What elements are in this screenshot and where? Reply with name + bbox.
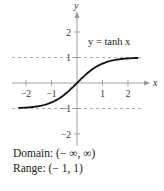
x-tick-label: −1 (46, 89, 56, 99)
x-tick-label: −2 (21, 89, 31, 99)
x-axis-label: x (152, 77, 158, 88)
range-caption: Range: (− 1, 1) (13, 162, 83, 174)
y-axis-arrow-icon (75, 11, 80, 18)
y-tick-label: −1 (61, 104, 71, 114)
y-tick-label: 2 (66, 28, 71, 38)
x-tick-label: 2 (126, 89, 131, 99)
y-tick-label: 1 (66, 53, 71, 63)
x-tick-label: 1 (100, 89, 105, 99)
domain-caption: Domain: (− ∞, ∞) (13, 147, 95, 159)
tanh-plot: xy−2−112−2−112y = tanh x (0, 0, 164, 150)
function-label: y = tanh x (88, 36, 131, 47)
y-tick-label: −2 (61, 130, 71, 140)
x-axis-arrow-icon (144, 81, 150, 86)
y-axis-label: y (73, 0, 79, 11)
